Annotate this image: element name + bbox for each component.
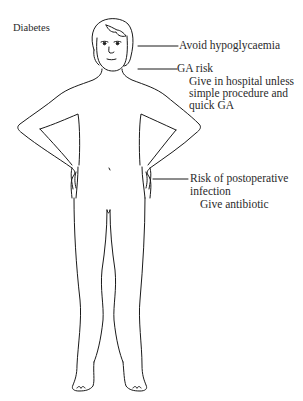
annotation-ga-risk-detail-line3: quick GA bbox=[189, 99, 234, 111]
annotation-ga-risk-detail-line2: simple procedure and bbox=[189, 87, 288, 99]
annotation-give-antibiotic: Give antibiotic bbox=[200, 198, 269, 210]
annotation-ga-risk-detail-line1: Give in hospital unless bbox=[189, 75, 294, 87]
annotation-postoperative-infection-line2: infection bbox=[190, 185, 231, 197]
body-outline bbox=[18, 69, 201, 391]
face bbox=[97, 36, 128, 71]
annotation-avoid-hypoglycaemia: Avoid hypoglycaemia bbox=[179, 39, 280, 51]
annotation-postoperative-infection-line1: Risk of postoperative bbox=[190, 172, 288, 184]
annotation-ga-risk: GA risk bbox=[177, 62, 213, 74]
